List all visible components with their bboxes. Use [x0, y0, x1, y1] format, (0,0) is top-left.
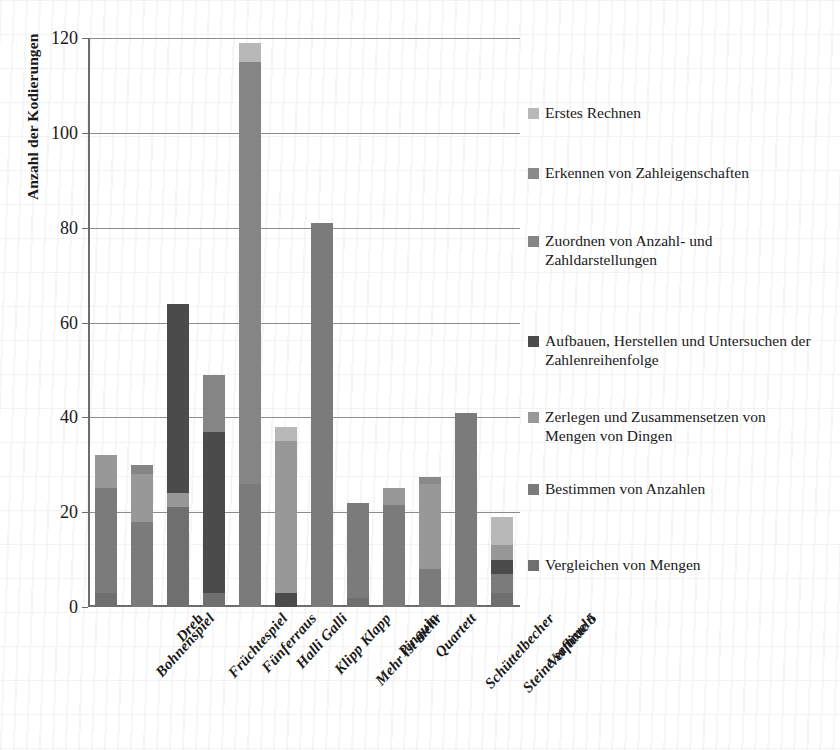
- bar-segment[interactable]: [491, 574, 514, 593]
- legend-label: Vergleichen von Mengen: [545, 556, 701, 575]
- bar-segment[interactable]: [239, 43, 262, 62]
- legend-entry[interactable]: Erkennen von Zahleigenschaften: [528, 164, 749, 183]
- bar-segment[interactable]: [275, 593, 298, 607]
- legend-label: Bestimmen von Anzahlen: [545, 480, 705, 499]
- legend-entry[interactable]: Vergleichen von Mengen: [528, 556, 701, 575]
- legend-swatch-icon: [528, 560, 539, 571]
- bar-segment[interactable]: [95, 593, 118, 607]
- y-tick-label: 80: [60, 217, 78, 238]
- bar-segment[interactable]: [383, 505, 406, 607]
- bar-stack[interactable]: [347, 38, 370, 607]
- bar-segment[interactable]: [167, 304, 190, 494]
- legend-entry[interactable]: Zerlegen und Zusammensetzen von Mengen v…: [528, 408, 817, 446]
- bar-segment[interactable]: [131, 522, 154, 607]
- plot-area: 120100806040200: [88, 38, 520, 607]
- legend-entry[interactable]: Aufbauen, Herstellen und Untersuchen der…: [528, 332, 817, 370]
- legend-swatch-icon: [528, 108, 539, 119]
- legend-entry[interactable]: Bestimmen von Anzahlen: [528, 480, 705, 499]
- bar-segment[interactable]: [203, 593, 226, 607]
- x-axis-labels: BohnenspielDrehFrüchtespielFünferrausHal…: [88, 610, 520, 750]
- legend-entry[interactable]: Zuordnen von Anzahl- und Zahldarstellung…: [528, 232, 817, 270]
- legend-entry[interactable]: Erstes Rechnen: [528, 104, 641, 123]
- bar-segment[interactable]: [347, 503, 370, 598]
- bar-segment[interactable]: [347, 598, 370, 607]
- legend-label: Zerlegen und Zusammensetzen von Mengen v…: [545, 408, 817, 446]
- legend-swatch-icon: [528, 412, 539, 423]
- bar-segment[interactable]: [167, 493, 190, 507]
- bar-segment[interactable]: [491, 593, 514, 607]
- bar-segment[interactable]: [455, 413, 478, 607]
- bar-segment[interactable]: [491, 560, 514, 574]
- bar-segment[interactable]: [131, 474, 154, 521]
- bar-segment[interactable]: [95, 488, 118, 592]
- bar-stack[interactable]: [203, 38, 226, 607]
- bar-stack[interactable]: [419, 38, 442, 607]
- bar-segment[interactable]: [95, 455, 118, 488]
- y-axis-title: Anzahl der Kodierungen: [24, 0, 42, 200]
- bar-segment[interactable]: [203, 432, 226, 593]
- legend-label: Erstes Rechnen: [545, 104, 641, 123]
- bar-stack[interactable]: [311, 38, 334, 607]
- bar-segment[interactable]: [239, 484, 262, 607]
- bars-layer: [88, 38, 520, 607]
- bar-stack[interactable]: [455, 38, 478, 607]
- y-tick-label: 0: [69, 597, 78, 618]
- bar-segment[interactable]: [491, 545, 514, 559]
- y-tick-label: 40: [60, 407, 78, 428]
- bar-segment[interactable]: [167, 507, 190, 607]
- bar-segment[interactable]: [383, 488, 406, 505]
- bar-segment[interactable]: [203, 375, 226, 432]
- legend-swatch-icon: [528, 336, 539, 347]
- y-tick-label: 20: [60, 502, 78, 523]
- legend-swatch-icon: [528, 484, 539, 495]
- y-tick-label: 100: [51, 122, 78, 143]
- bar-segment[interactable]: [419, 477, 442, 484]
- bar-stack[interactable]: [491, 38, 514, 607]
- y-tick-label: 120: [51, 28, 78, 49]
- bar-segment[interactable]: [491, 517, 514, 545]
- bar-stack[interactable]: [167, 38, 190, 607]
- y-tick-mark: [82, 607, 88, 608]
- bar-stack[interactable]: [239, 38, 262, 607]
- bar-stack[interactable]: [95, 38, 118, 607]
- bar-segment[interactable]: [275, 427, 298, 441]
- bar-segment[interactable]: [311, 223, 334, 607]
- bar-stack[interactable]: [131, 38, 154, 607]
- bar-segment[interactable]: [419, 569, 442, 607]
- bar-segment[interactable]: [131, 465, 154, 474]
- bar-segment[interactable]: [275, 441, 298, 593]
- stacked-bar-chart-figure: Anzahl der Kodierungen 120100806040200 B…: [0, 0, 840, 750]
- bar-stack[interactable]: [275, 38, 298, 607]
- y-tick-label: 60: [60, 312, 78, 333]
- bar-segment[interactable]: [239, 62, 262, 484]
- legend-swatch-icon: [528, 168, 539, 179]
- legend-swatch-icon: [528, 236, 539, 247]
- bar-segment[interactable]: [419, 484, 442, 569]
- legend-label: Zuordnen von Anzahl- und Zahldarstellung…: [545, 232, 817, 270]
- bar-stack[interactable]: [383, 38, 406, 607]
- legend-label: Erkennen von Zahleigenschaften: [545, 164, 749, 183]
- legend-label: Aufbauen, Herstellen und Untersuchen der…: [545, 332, 817, 370]
